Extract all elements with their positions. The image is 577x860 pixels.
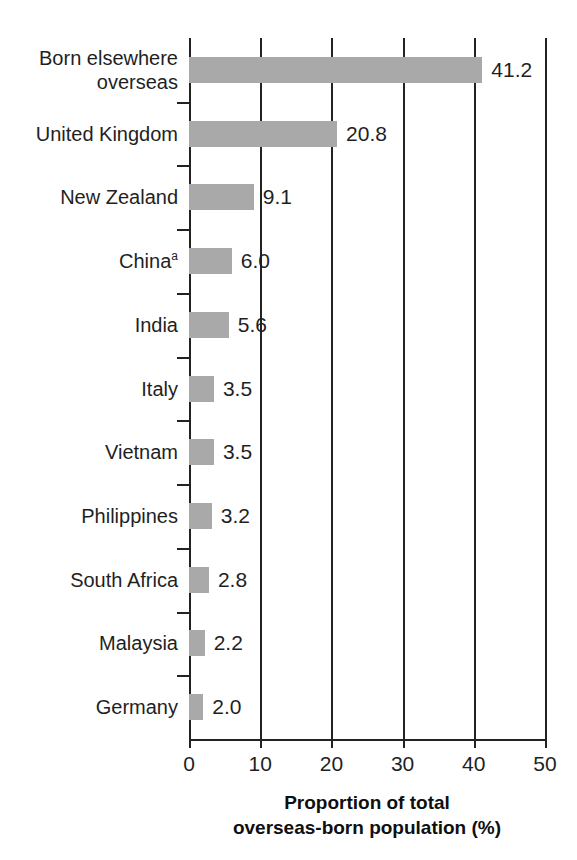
x-tick-40 [474,739,476,748]
bar-value-label: 2.0 [212,694,241,720]
bar-value-label: 6.0 [241,248,270,274]
x-tick-label-50: 50 [515,752,575,776]
bar-chart-figure: 0102030405041.2Born elsewhereoverseas20.… [0,0,577,860]
category-label-wrap: Malaysia [0,631,178,655]
category-label-wrap: South Africa [0,568,178,592]
bar[interactable] [189,376,214,402]
bar[interactable] [189,248,232,274]
bar[interactable] [189,312,229,338]
bar[interactable] [189,121,337,147]
bar-value-label: 20.8 [346,121,387,147]
x-tick-10 [260,739,262,748]
bar[interactable] [189,439,214,465]
category-label: Philippines [8,504,178,528]
bar[interactable] [189,57,482,83]
gridline-50 [545,38,547,740]
category-label: Born elsewhereoverseas [8,46,178,94]
bar-value-label: 9.1 [263,184,292,210]
y-tick-5 [177,357,189,359]
category-label: India [8,313,178,337]
category-label-wrap: Philippines [0,504,178,528]
bar[interactable] [189,503,212,529]
category-label-wrap: Chinaa [0,249,178,273]
x-tick-50 [545,739,547,748]
category-label-wrap: Italy [0,377,178,401]
category-label: Vietnam [8,440,178,464]
category-label: United Kingdom [8,122,178,146]
footnote-marker: a [171,249,178,263]
category-label-wrap: New Zealand [0,185,178,209]
bar-value-label: 3.2 [221,503,250,529]
y-tick-8 [177,548,189,550]
x-tick-label-30: 30 [373,752,433,776]
x-axis-title-line1: Proportion of total [284,792,450,813]
category-label: New Zealand [8,185,178,209]
bar-value-label: 2.2 [214,630,243,656]
x-tick-0 [189,739,191,748]
y-tick-6 [177,420,189,422]
x-tick-label-20: 20 [301,752,361,776]
category-label: Italy [8,377,178,401]
x-axis-title-line2: overseas-born population (%) [233,817,501,838]
category-label: Germany [8,695,178,719]
category-label-wrap: India [0,313,178,337]
y-tick-3 [177,229,189,231]
x-tick-label-10: 10 [230,752,290,776]
bar-value-label: 3.5 [223,439,252,465]
bar[interactable] [189,184,254,210]
y-tick-10 [177,675,189,677]
x-axis-baseline [189,739,546,741]
gridline-40 [474,38,476,740]
y-tick-7 [177,484,189,486]
y-tick-1 [177,102,189,104]
category-label-wrap: Germany [0,695,178,719]
category-label: South Africa [8,568,178,592]
category-label-wrap: Born elsewhereoverseas [0,46,178,94]
bar[interactable] [189,694,203,720]
bar-value-label: 5.6 [238,312,267,338]
gridline-30 [403,38,405,740]
y-tick-9 [177,612,189,614]
category-label-wrap: Vietnam [0,440,178,464]
bar[interactable] [189,630,205,656]
bar-value-label: 3.5 [223,376,252,402]
x-tick-30 [403,739,405,748]
category-label: Malaysia [8,631,178,655]
x-tick-label-0: 0 [159,752,219,776]
x-tick-label-40: 40 [444,752,504,776]
bar-value-label: 2.8 [218,567,247,593]
category-label: Chinaa [8,249,178,273]
bar[interactable] [189,567,209,593]
x-tick-20 [331,739,333,748]
x-axis-title: Proportion of total overseas-born popula… [189,790,545,840]
y-tick-2 [177,165,189,167]
category-label-wrap: United Kingdom [0,122,178,146]
y-tick-4 [177,293,189,295]
bar-value-label: 41.2 [491,57,532,83]
